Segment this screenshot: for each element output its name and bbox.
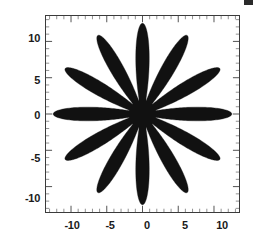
x-tick-label-neg5: -5: [90, 220, 130, 231]
star-polygon-path: [53, 23, 232, 204]
x-tick-label-5: 5: [165, 220, 205, 231]
y-tick-label-neg5: -5: [0, 153, 40, 164]
y-tick-label-10: 10: [0, 33, 40, 44]
y-tick-label-0: 0: [0, 110, 40, 121]
polar-curve: [46, 16, 239, 212]
x-tick-label-10: 10: [202, 220, 242, 231]
scan-artifact: [244, 0, 253, 5]
x-tick-label-neg10: -10: [52, 220, 92, 231]
plot-frame: [45, 15, 240, 213]
y-tick-label-neg10: -10: [0, 193, 40, 204]
polar-star-figure: 10 5 0 -5 -10 -10 -5 0 5 10: [0, 0, 256, 240]
y-tick-label-5: 5: [0, 75, 40, 86]
x-tick-label-0: 0: [127, 220, 167, 231]
